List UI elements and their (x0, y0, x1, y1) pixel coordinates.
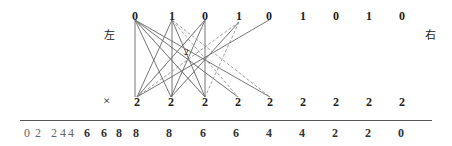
result-digit: 4 (68, 127, 74, 139)
top-digit: 0 (266, 10, 272, 22)
bottom-digit: 2 (235, 96, 241, 108)
result-digit: 2 (332, 127, 338, 139)
result-digit: 0 (398, 127, 404, 139)
top-digit: 0 (202, 10, 208, 22)
connection-lines (0, 0, 452, 146)
top-digit: 1 (366, 10, 372, 22)
top-digit: 0 (132, 10, 138, 22)
top-digit: 0 (399, 10, 405, 22)
result-digit: 8 (166, 127, 172, 139)
result-digit: 2 (365, 127, 371, 139)
result-digit: 2 (35, 127, 41, 139)
bottom-digit: 2 (300, 96, 306, 108)
bottom-digit: 2 (168, 96, 174, 108)
result-digit: 6 (233, 127, 239, 139)
result-digit: 4 (266, 127, 272, 139)
result-digit: 4 (299, 127, 305, 139)
result-digit: 8 (133, 127, 139, 139)
hub-label: 2 (184, 47, 189, 58)
bottom-digit: 2 (267, 96, 273, 108)
result-digit: 4 (60, 127, 66, 139)
result-digit: 6 (200, 127, 206, 139)
result-digit: 6 (84, 127, 90, 139)
result-digit: 6 (101, 127, 107, 139)
bottom-digit: 2 (134, 96, 140, 108)
bottom-digit: 2 (366, 96, 372, 108)
bottom-digit: 2 (202, 96, 208, 108)
result-digit: 0 (24, 127, 30, 139)
bottom-digit: 2 (333, 96, 339, 108)
top-digit: 0 (333, 10, 339, 22)
top-digit: 1 (300, 10, 306, 22)
top-digit: 1 (236, 10, 242, 22)
divider-line (20, 120, 432, 121)
bottom-digit: 2 (399, 96, 405, 108)
top-digit: 1 (169, 10, 175, 22)
result-digit: 8 (116, 127, 122, 139)
result-digit: 2 (51, 127, 57, 139)
